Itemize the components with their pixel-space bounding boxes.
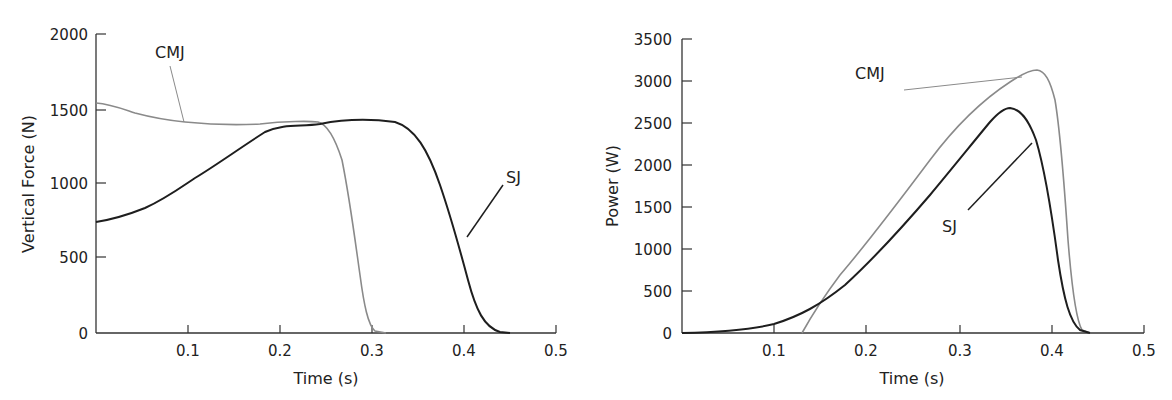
sj-leader-line: [968, 143, 1032, 210]
cmj-power-curve: [802, 70, 1090, 333]
y-tick-label: 500: [59, 249, 88, 267]
x-tick-label: 0.5: [544, 342, 568, 360]
cmj-label: CMJ: [855, 64, 885, 83]
y-tick-label: 2500: [634, 115, 672, 133]
figure: 0 500 1000 1500 2000 0.1 0.2 0.3 0.4 0.5…: [0, 0, 1172, 400]
sj-label: SJ: [506, 168, 521, 187]
y-ticks: [682, 39, 692, 291]
x-tick-label: 0.3: [948, 342, 972, 360]
sj-force-curve: [96, 120, 510, 333]
y-tick-label: 500: [643, 283, 672, 301]
y-tick-label: 1000: [50, 175, 88, 193]
x-tick-label: 0.1: [762, 342, 786, 360]
x-tick-label: 0.2: [854, 342, 878, 360]
power-chart: 0 500 1000 1500 2000 2500 3000 3500 0.1 …: [603, 31, 1156, 388]
force-chart: 0 500 1000 1500 2000 0.1 0.2 0.3 0.4 0.5…: [19, 26, 568, 388]
sj-power-curve: [682, 108, 1090, 333]
x-axis-title: Time (s): [878, 369, 944, 388]
y-axis-title: Power (W): [603, 145, 622, 227]
y-tick-label: 0: [662, 325, 672, 343]
cmj-force-curve: [96, 103, 386, 333]
x-tick-label: 0.3: [360, 342, 384, 360]
cmj-leader-line: [904, 77, 1022, 90]
y-ticks: [96, 34, 106, 257]
sj-leader-line: [467, 185, 503, 237]
y-axis-title: Vertical Force (N): [19, 115, 38, 253]
y-tick-label: 2000: [634, 157, 672, 175]
x-tick-label: 0.5: [1132, 342, 1156, 360]
y-tick-label: 0: [78, 325, 88, 343]
cmj-leader-line: [170, 66, 184, 122]
sj-label: SJ: [942, 217, 957, 236]
y-tick-label: 1000: [634, 241, 672, 259]
y-tick-label: 3500: [634, 31, 672, 49]
x-tick-label: 0.2: [268, 342, 292, 360]
x-axis-title: Time (s): [292, 369, 358, 388]
y-tick-label: 1500: [50, 102, 88, 120]
x-tick-label: 0.4: [1040, 342, 1064, 360]
x-tick-label: 0.4: [452, 342, 476, 360]
x-tick-label: 0.1: [176, 342, 200, 360]
y-tick-label: 1500: [634, 199, 672, 217]
y-tick-label: 3000: [634, 73, 672, 91]
y-tick-label: 2000: [50, 26, 88, 44]
cmj-label: CMJ: [155, 43, 185, 62]
